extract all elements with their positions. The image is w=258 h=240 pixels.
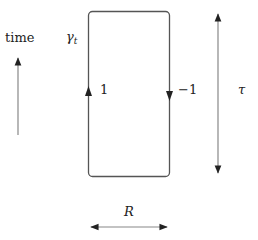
height-label: τ (238, 82, 246, 97)
loop-diagram: time γt 1 −1 τ R (0, 0, 258, 240)
right-edge-label: −1 (178, 82, 197, 97)
curve-label: γt (66, 29, 78, 46)
left-edge-label: 1 (100, 82, 108, 97)
up-arrow-icon (85, 86, 92, 96)
down-arrow-icon (166, 91, 173, 101)
time-label: time (5, 30, 35, 45)
width-label: R (123, 204, 134, 219)
